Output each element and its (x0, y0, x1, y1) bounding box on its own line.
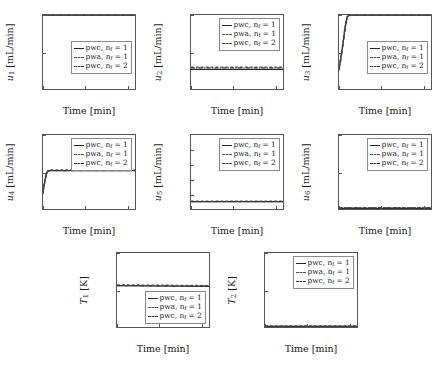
ytick-mark (265, 253, 268, 254)
yaxis-label-text: T2 [K] (226, 230, 239, 350)
legend-label: pwc, nf = 2 (308, 277, 350, 286)
figure-canvas: 00.050.10100200pwc, nf = 1pwa, nf = 1pwc… (0, 0, 447, 369)
legend-swatch-dashdot-icon (296, 281, 306, 282)
subplot-T2: 3003504000100200pwc, nf = 1pwa, nf = 1pw… (0, 0, 447, 369)
xaxis-label-T2: Time [min] (285, 343, 338, 354)
xtick-mark (307, 324, 308, 327)
legend-swatch-solid-icon (296, 263, 306, 264)
xtick-mark (265, 324, 266, 327)
legend-swatch-dash-icon (296, 272, 306, 273)
legend-row: pwc, nf = 2 (296, 277, 350, 286)
legend-T2: pwc, nf = 1pwa, nf = 1pwc, nf = 2 (293, 256, 354, 289)
yaxis-label-T2: T2 [K] (172, 284, 292, 297)
xtick-mark (350, 324, 351, 327)
